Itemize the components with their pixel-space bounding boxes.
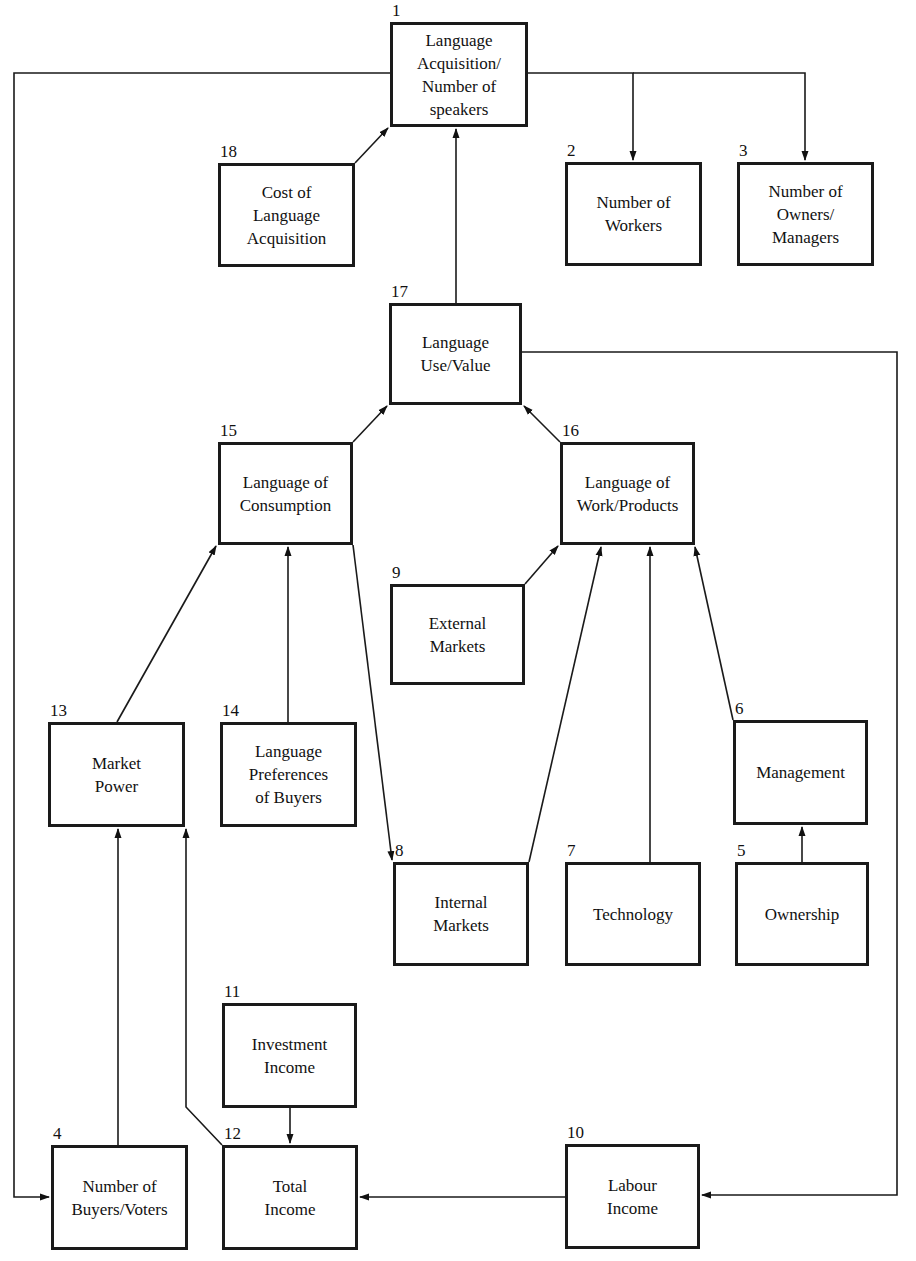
node-label: Language of Consumption — [240, 471, 332, 517]
node-number-18: 18 — [220, 143, 237, 161]
node-label: Cost of Language Acquisition — [247, 181, 326, 250]
node-label: Ownership — [765, 903, 840, 926]
edge-6-to-16 — [695, 547, 733, 720]
node-label: Market Power — [92, 752, 141, 798]
node-box-5: Ownership — [735, 862, 869, 966]
node-label: Number of Owners/ Managers — [768, 180, 842, 249]
node-number-10: 10 — [567, 1124, 584, 1142]
node-label: Number of Buyers/Voters — [71, 1175, 167, 1221]
node-box-10: Labour Income — [565, 1144, 700, 1249]
node-number-12: 12 — [224, 1125, 241, 1143]
edge-13-to-15 — [117, 546, 216, 722]
node-label: Language Preferences of Buyers — [249, 740, 328, 809]
node-label: Technology — [593, 903, 673, 926]
node-number-2: 2 — [567, 142, 576, 160]
node-number-13: 13 — [50, 702, 67, 720]
edge-1-to-2 — [528, 73, 633, 160]
node-box-17: Language Use/Value — [389, 303, 522, 405]
edge-1-to-3 — [633, 73, 805, 160]
node-label: Labour Income — [607, 1174, 658, 1220]
node-number-4: 4 — [53, 1125, 62, 1143]
node-label: External Markets — [429, 612, 487, 658]
edge-9-to-16 — [525, 546, 558, 584]
node-number-5: 5 — [737, 842, 746, 860]
node-label: Language Acquisition/ Number of speakers — [417, 29, 501, 121]
edge-18-to-1 — [355, 128, 388, 163]
node-number-3: 3 — [739, 142, 748, 160]
node-box-9: External Markets — [390, 584, 525, 685]
node-box-7: Technology — [565, 862, 701, 966]
node-box-13: Market Power — [48, 722, 185, 827]
node-number-6: 6 — [735, 700, 744, 718]
edge-16-to-17 — [524, 406, 560, 442]
node-label: Number of Workers — [596, 191, 670, 237]
node-box-14: Language Preferences of Buyers — [220, 722, 357, 827]
node-box-6: Management — [733, 720, 868, 825]
node-label: Language of Work/Products — [577, 471, 679, 517]
node-number-16: 16 — [562, 422, 579, 440]
edge-8-to-16 — [529, 547, 601, 862]
node-number-11: 11 — [224, 983, 240, 1001]
node-box-18: Cost of Language Acquisition — [218, 163, 355, 267]
node-box-16: Language of Work/Products — [560, 442, 695, 545]
node-number-15: 15 — [220, 422, 237, 440]
node-number-7: 7 — [567, 842, 576, 860]
node-label: Management — [756, 761, 845, 784]
node-label: Language Use/Value — [421, 331, 491, 377]
edge-15-to-17 — [353, 406, 387, 442]
node-label: Investment Income — [252, 1033, 328, 1079]
node-box-12: Total Income — [222, 1145, 358, 1250]
node-box-4: Number of Buyers/Voters — [51, 1145, 188, 1250]
node-number-8: 8 — [395, 842, 404, 860]
node-box-8: Internal Markets — [393, 862, 529, 966]
node-number-17: 17 — [391, 283, 408, 301]
edge-15-to-8 — [353, 545, 392, 860]
node-box-11: Investment Income — [222, 1003, 357, 1108]
node-box-3: Number of Owners/ Managers — [737, 162, 874, 266]
edge-12-to-13 — [186, 829, 222, 1145]
node-box-15: Language of Consumption — [218, 442, 353, 545]
node-label: Total Income — [265, 1175, 316, 1221]
node-box-2: Number of Workers — [565, 162, 702, 266]
node-box-1: Language Acquisition/ Number of speakers — [390, 22, 528, 127]
node-number-14: 14 — [222, 702, 239, 720]
node-number-1: 1 — [392, 2, 401, 20]
node-number-9: 9 — [392, 564, 401, 582]
node-label: Internal Markets — [433, 891, 489, 937]
